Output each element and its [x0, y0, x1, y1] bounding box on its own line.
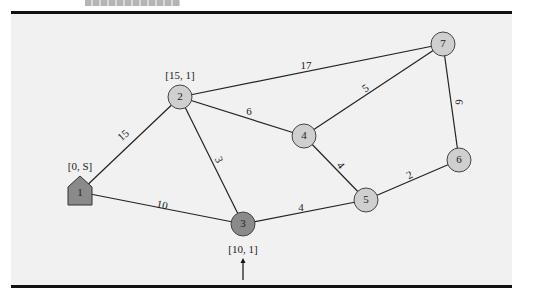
node-1-tag: [0, S] [68, 160, 92, 172]
node-tags-layer: [0, S][15, 1][10, 1] [68, 69, 258, 255]
node-5: 5 [354, 188, 378, 212]
node-2-tag: [15, 1] [165, 69, 194, 81]
pointer-arrow [241, 258, 246, 280]
node-label: 7 [440, 37, 446, 49]
node-7: 7 [431, 32, 455, 56]
edge-weight-2-7: 17 [301, 59, 313, 71]
node-label: 2 [177, 90, 183, 102]
edge-weight-3-5: 4 [298, 201, 304, 213]
edge-weight-2-4: 6 [246, 105, 252, 117]
node-label: 1 [77, 186, 83, 198]
edge-weights-layer: 1510361754426 [115, 59, 466, 213]
edge-weight-1-2: 15 [115, 126, 132, 143]
edge-4-5 [304, 136, 366, 200]
edge-weight-2-3: 3 [213, 154, 226, 165]
edge-2-3 [180, 97, 243, 224]
edge-weight-5-6: 2 [404, 168, 414, 181]
node-label: 4 [301, 129, 307, 141]
node-label: 6 [456, 153, 462, 165]
node-label: 3 [240, 217, 246, 229]
edge-weight-7-6: 6 [453, 99, 465, 106]
edges-layer [80, 44, 459, 224]
node-3: 3 [231, 212, 255, 236]
up-arrow-icon [241, 258, 246, 263]
node-4: 4 [292, 124, 316, 148]
edge-1-2 [80, 97, 180, 192]
edge-2-4 [180, 97, 304, 136]
edge-3-5 [243, 200, 366, 224]
node-6: 6 [447, 148, 471, 172]
network-graph: 1510361754426 1234567 [0, S][15, 1][10, … [0, 0, 533, 298]
node-label: 5 [363, 193, 369, 205]
edge-5-6 [366, 160, 459, 200]
node-2: 2 [168, 85, 192, 109]
node-3-tag: [10, 1] [228, 243, 257, 255]
node-1: 1 [68, 176, 92, 205]
